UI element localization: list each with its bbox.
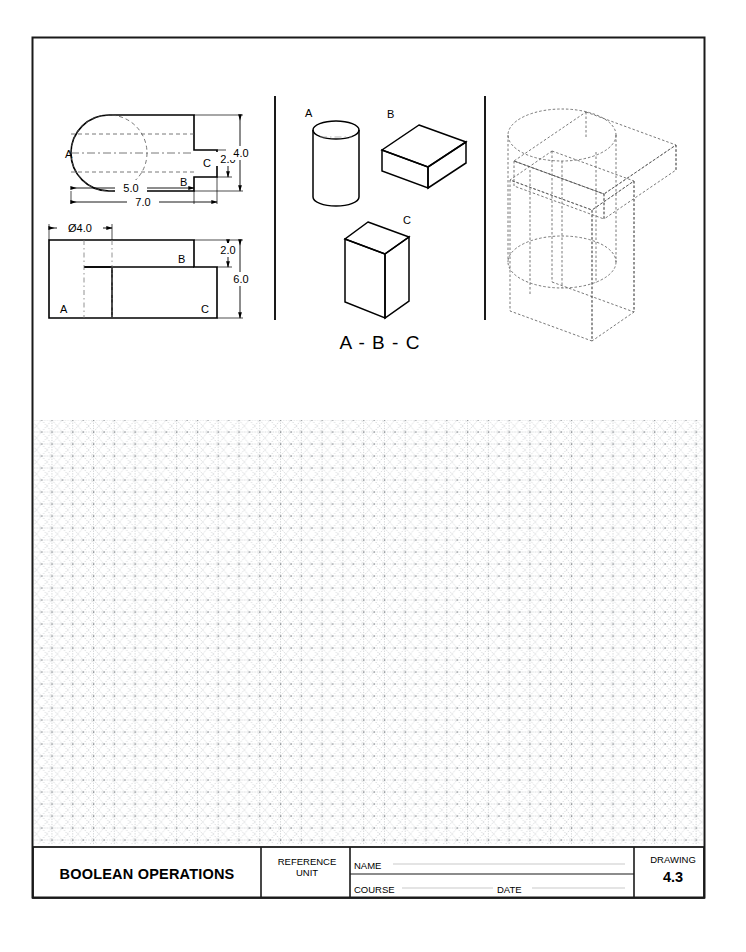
isometric-panel	[508, 109, 676, 341]
name-field-label: NAME	[354, 860, 381, 871]
top-view-label-a: A	[65, 148, 73, 160]
top-dim-4-text: 4.0	[233, 147, 248, 159]
front-view: A B C Ø4.0 2.0 6.0	[49, 220, 256, 318]
top-view-label-b: B	[180, 176, 187, 188]
iso-box-b	[514, 112, 676, 219]
front-view-label-b: B	[178, 253, 185, 265]
front-dim-6-text: 6.0	[233, 273, 248, 285]
course-field-label: COURSE	[354, 884, 395, 895]
isometric-grid-area	[33, 420, 704, 844]
top-dim-7-text: 7.0	[135, 196, 150, 208]
top-view: A B C 5.0 7.0	[65, 115, 256, 209]
solid-b-label: B	[387, 108, 394, 120]
drawing-sheet: A B C 5.0 7.0	[0, 0, 746, 952]
orthographic-panel: A B C 5.0 7.0	[49, 115, 256, 318]
solids-panel: A B C	[305, 107, 466, 318]
solid-a-cylinder: A	[305, 107, 359, 206]
solid-c-label: C	[403, 214, 411, 226]
iso-slab-c	[510, 151, 634, 341]
front-view-label-a: A	[60, 303, 68, 315]
combination-label: A - B - C	[300, 332, 460, 354]
date-field-label: DATE	[497, 884, 522, 895]
front-view-label-c: C	[201, 303, 209, 315]
solid-a-label: A	[305, 107, 313, 119]
solid-c-slab: C	[345, 214, 411, 318]
front-dim-dia-text: Ø4.0	[68, 222, 92, 234]
solid-b-box: B	[382, 108, 466, 188]
front-view-outline	[49, 240, 217, 318]
front-dim-2-text: 2.0	[220, 244, 235, 256]
top-view-label-c: C	[203, 157, 211, 169]
drawing-canvas: A B C 5.0 7.0	[0, 0, 746, 952]
top-dim-5-text: 5.0	[123, 182, 138, 194]
